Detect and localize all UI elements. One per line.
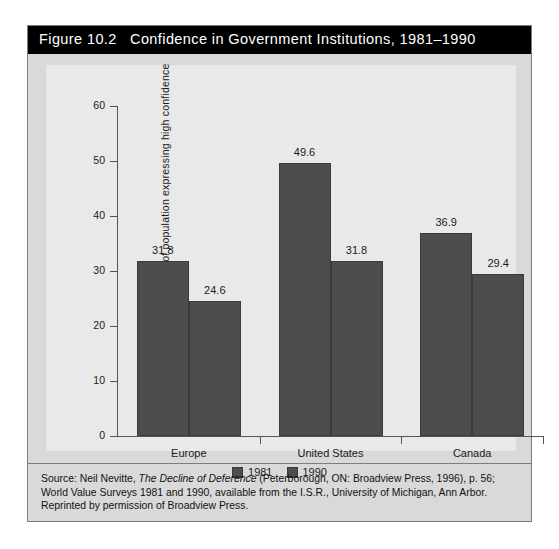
bar (472, 274, 524, 436)
plot-frame: Percent of population expressing high co… (46, 65, 516, 451)
y-tick-label: 0 (99, 429, 105, 441)
source-note: Source: Neil Nevitte, The Decline of Def… (41, 472, 519, 513)
y-tick: 60 (110, 106, 118, 107)
bar (137, 261, 189, 436)
y-tick-mark (110, 271, 118, 272)
x-tick-mark (260, 436, 261, 444)
source-separator (28, 463, 531, 464)
y-tick: 0 (110, 436, 118, 437)
source-prefix: Source: Neil Nevitte, (41, 473, 139, 484)
bar-value-label: 36.9 (420, 216, 472, 228)
y-tick-label: 30 (93, 264, 105, 276)
bar (420, 233, 472, 436)
x-axis-group-label: Europe (118, 447, 260, 459)
chart-panel: Percent of population expressing high co… (28, 54, 531, 462)
x-axis-group-label: United States (260, 447, 402, 459)
y-tick-label: 40 (93, 209, 105, 221)
y-tick-mark (110, 106, 118, 107)
y-tick-label: 10 (93, 374, 105, 386)
x-tick-mark (401, 436, 402, 444)
y-tick-label: 50 (93, 154, 105, 166)
x-axis-line (117, 436, 544, 437)
y-tick: 30 (110, 271, 118, 272)
x-tick-mark (543, 436, 544, 444)
y-tick: 50 (110, 161, 118, 162)
bar-value-label: 29.4 (472, 257, 524, 269)
bar (279, 163, 331, 436)
y-tick-mark (110, 326, 118, 327)
x-axis-group-label: Canada (401, 447, 543, 459)
y-tick-mark (110, 381, 118, 382)
y-tick: 20 (110, 326, 118, 327)
bar-value-label: 31.8 (137, 244, 189, 256)
page-title: Figure 10.2 Confidence in Government Ins… (39, 31, 476, 47)
figure-title-bar: Figure 10.2 Confidence in Government Ins… (28, 26, 531, 54)
figure-container: Figure 10.2 Confidence in Government Ins… (27, 25, 532, 522)
y-tick-label: 20 (93, 319, 105, 331)
y-tick-label: 60 (93, 99, 105, 111)
bar (331, 261, 383, 436)
bar-value-label: 24.6 (189, 284, 241, 296)
bar-value-label: 49.6 (279, 146, 331, 158)
bar (189, 301, 241, 436)
bar-value-label: 31.8 (331, 244, 383, 256)
y-tick: 10 (110, 381, 118, 382)
y-tick-mark (110, 161, 118, 162)
y-tick-mark (110, 436, 118, 437)
source-book-title: The Decline of Deference (139, 473, 257, 484)
y-tick-mark (110, 216, 118, 217)
plot-area: 31.824.649.631.836.929.4 (118, 106, 543, 436)
y-tick: 40 (110, 216, 118, 217)
